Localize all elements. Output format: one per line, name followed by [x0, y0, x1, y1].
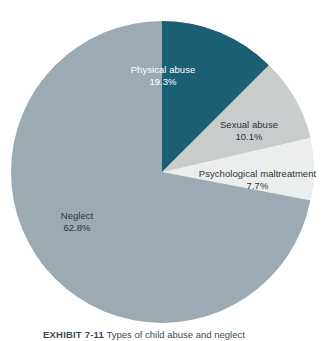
pie-label-sexual-abuse: Sexual abuse 10.1%: [206, 119, 292, 142]
figure-caption-id: EXHIBIT 7-11: [43, 329, 104, 340]
figure-caption: EXHIBIT 7-11 Types of child abuse and ne…: [43, 329, 329, 341]
figure-caption-text: Types of child abuse and neglect: [104, 329, 245, 340]
pie-label-sexual-abuse-name: Sexual abuse: [206, 119, 292, 131]
pie-label-neglect: Neglect 62.8%: [44, 210, 110, 233]
pie-label-physical-abuse-name: Physical abuse: [108, 64, 218, 76]
pie-label-physical-abuse-value: 19.3%: [108, 76, 218, 88]
pie-label-psychological-maltreatment-name: Psychological maltreatment: [186, 168, 329, 180]
pie-label-physical-abuse: Physical abuse 19.3%: [108, 64, 218, 87]
pie-label-neglect-value: 62.8%: [44, 222, 110, 234]
pie-label-neglect-name: Neglect: [44, 210, 110, 222]
pie-label-psychological-maltreatment-value: 7.7%: [186, 180, 329, 192]
pie-label-psychological-maltreatment: Psychological maltreatment 7.7%: [186, 168, 329, 191]
pie-chart-figure: Physical abuse 19.3% Sexual abuse 10.1% …: [0, 0, 329, 341]
pie-label-sexual-abuse-value: 10.1%: [206, 131, 292, 143]
